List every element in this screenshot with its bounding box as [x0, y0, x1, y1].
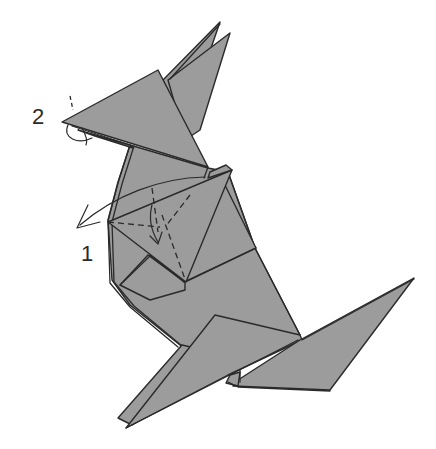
step-label-1: 1 [81, 243, 93, 265]
step-label-2: 2 [32, 106, 44, 128]
origami-kangaroo-diagram [0, 0, 436, 449]
